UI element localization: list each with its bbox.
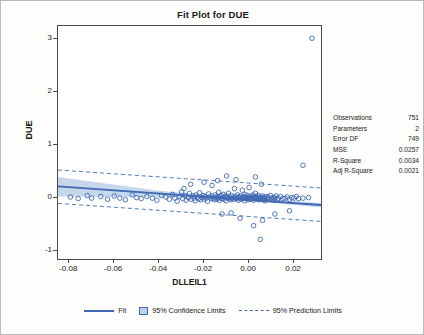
stat-label: R-Square — [333, 156, 361, 167]
y-tick-mark — [53, 91, 57, 92]
fit-plot-page: Fit Plot for DUE DUE DLLEIL1 3210-1 -0.0… — [0, 0, 424, 335]
stat-value: 749 — [408, 134, 419, 145]
legend-item-conf[interactable]: 95% Confidence Limits — [139, 306, 226, 315]
y-tick-label: 2 — [30, 86, 52, 95]
stat-label: MSE — [333, 145, 347, 156]
stat-value: 0.0257 — [399, 145, 419, 156]
legend-line-swatch — [84, 310, 114, 312]
x-tick-mark — [68, 259, 69, 263]
y-tick-mark — [53, 38, 57, 39]
legend-dash-swatch — [239, 310, 269, 311]
y-tick-mark — [53, 250, 57, 251]
page-title: Fit Plot for DUE — [1, 9, 424, 20]
y-tick-mark — [53, 197, 57, 198]
stat-label: Parameters — [333, 124, 367, 135]
x-axis-label: DLLEIL1 — [57, 277, 322, 287]
x-tick-label: 0.02 — [273, 264, 313, 273]
y-tick-mark — [53, 144, 57, 145]
legend-item-fit[interactable]: Fit — [84, 306, 126, 315]
legend-item-pred[interactable]: 95% Prediction Limits — [239, 306, 342, 315]
stat-row: Observations751 — [333, 113, 419, 124]
x-tick-mark — [293, 259, 294, 263]
x-tick-label: -0.08 — [48, 264, 88, 273]
stat-row: MSE0.0257 — [333, 145, 419, 156]
stat-row: R-Square0.0034 — [333, 156, 419, 167]
x-tick-label: -0.06 — [93, 264, 133, 273]
x-tick-mark — [113, 259, 114, 263]
x-tick-mark — [203, 259, 204, 263]
stat-row: Error DF749 — [333, 134, 419, 145]
y-tick-label: 3 — [30, 33, 52, 42]
x-tick-label: -0.02 — [183, 264, 223, 273]
y-tick-label: 0 — [30, 192, 52, 201]
legend-label: 95% Confidence Limits — [152, 306, 226, 315]
y-tick-label: -1 — [30, 245, 52, 254]
stat-label: Observations — [333, 113, 372, 124]
stat-row: Adj R-Square0.0021 — [333, 166, 419, 177]
stat-value: 0.0021 — [399, 166, 419, 177]
x-tick-mark — [248, 259, 249, 263]
legend-label: Fit — [118, 306, 126, 315]
plot-area — [57, 25, 322, 260]
stat-value: 0.0034 — [399, 156, 419, 167]
stat-label: Error DF — [333, 134, 358, 145]
y-tick-label: 1 — [30, 139, 52, 148]
x-tick-label: 0.00 — [228, 264, 268, 273]
stat-value: 2 — [415, 124, 419, 135]
scatter-plot-svg — [58, 26, 321, 259]
stat-label: Adj R-Square — [333, 166, 373, 177]
stat-value: 751 — [408, 113, 419, 124]
x-tick-label: -0.04 — [138, 264, 178, 273]
statistics-panel: Observations751Parameters2Error DF749MSE… — [333, 113, 419, 177]
data-points — [68, 36, 314, 242]
chart-legend: Fit95% Confidence Limits95% Prediction L… — [1, 306, 424, 315]
legend-label: 95% Prediction Limits — [273, 306, 342, 315]
legend-band-swatch — [139, 307, 148, 315]
x-tick-mark — [158, 259, 159, 263]
y-axis-label: DUE — [24, 100, 34, 160]
stat-row: Parameters2 — [333, 124, 419, 135]
